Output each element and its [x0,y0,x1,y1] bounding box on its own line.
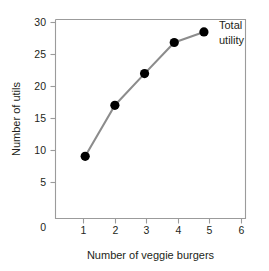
x-tick-label-1: 1 [81,224,87,236]
data-point [199,27,208,36]
origin-label: 0 [40,221,46,233]
y-tick-label-10: 10 [34,144,46,156]
y-tick-label-15: 15 [34,112,46,124]
y-tick-label-30: 30 [34,16,46,28]
y-tick-label-20: 20 [34,80,46,92]
y-tick-label-5: 5 [40,176,46,188]
data-point [140,69,149,78]
x-tick-label-6: 6 [239,224,245,236]
x-tick-label-5: 5 [207,224,213,236]
data-point [110,101,119,110]
y-axis-title: Number of utils [10,82,22,156]
y-tick-label-25: 25 [34,48,46,60]
x-tick-label-4: 4 [176,224,182,236]
total-utility-label-line2: utility [219,34,245,46]
data-point [81,152,90,161]
data-point [170,38,179,47]
total-utility-chart: 30 25 20 15 10 5 0 1 2 3 4 5 6 Total uti… [0,0,269,271]
x-tick-label-2: 2 [113,224,119,236]
x-tick-label-3: 3 [144,224,150,236]
total-utility-label-line1: Total [219,19,242,31]
x-axis-title: Number of veggie burgers [87,249,215,261]
